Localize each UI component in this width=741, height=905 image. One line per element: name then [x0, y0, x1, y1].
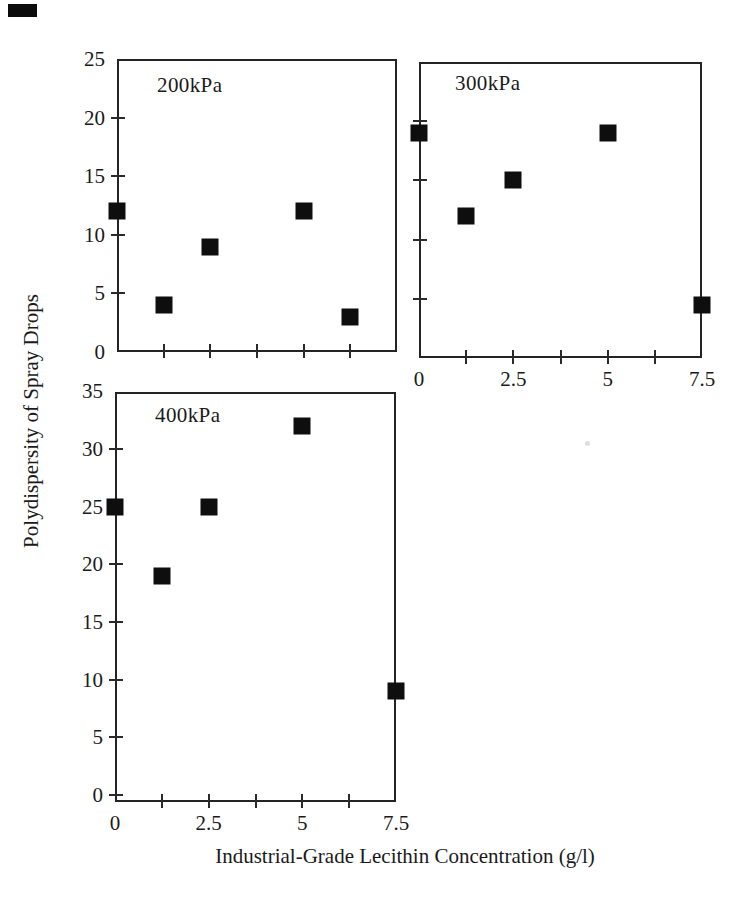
y-tick-label: 20: [59, 108, 105, 129]
x-tick-label: 5: [585, 369, 631, 390]
x-tick-label: 0: [396, 369, 442, 390]
y-tick-label: 25: [59, 49, 105, 70]
x-tick-mark: [349, 344, 351, 358]
x-tick-label: 7.5: [679, 369, 725, 390]
y-tick-mark: [413, 239, 427, 241]
x-tick-label: 5: [279, 813, 325, 834]
x-tick-label: 0: [92, 813, 138, 834]
x-tick-mark: [512, 350, 514, 364]
y-tick-mark: [111, 117, 125, 119]
x-tick-mark: [255, 794, 257, 808]
x-tick-mark: [348, 794, 350, 808]
x-tick-mark: [208, 794, 210, 808]
plot-title-300kPa: 300kPa: [455, 73, 520, 94]
y-tick-label: 30: [57, 439, 103, 460]
x-tick-mark: [654, 350, 656, 364]
plot-frame-400kPa: [115, 392, 396, 802]
y-tick-label: 25: [57, 497, 103, 518]
x-tick-label: 2.5: [490, 369, 536, 390]
x-tick-mark: [163, 344, 165, 358]
y-tick-label: 0: [59, 342, 105, 363]
plot-title-200kPa: 200kPa: [157, 75, 222, 96]
data-point-marker: [202, 238, 219, 255]
data-point-marker: [109, 203, 126, 220]
data-point-marker: [294, 418, 311, 435]
x-tick-mark: [161, 794, 163, 808]
y-tick-label: 15: [57, 612, 103, 633]
y-axis-title: Polydispersity of Spray Drops: [19, 271, 43, 571]
data-point-marker: [599, 125, 616, 142]
data-point-marker: [388, 683, 405, 700]
data-point-marker: [342, 308, 359, 325]
data-point-marker: [458, 207, 475, 224]
data-point-marker: [155, 297, 172, 314]
x-tick-mark: [607, 350, 609, 364]
y-tick-label: 10: [57, 670, 103, 691]
data-point-marker: [295, 203, 312, 220]
y-tick-mark: [413, 298, 427, 300]
y-tick-mark: [111, 292, 125, 294]
y-tick-label: 5: [57, 727, 103, 748]
y-tick-label: 20: [57, 554, 103, 575]
y-tick-mark: [109, 794, 123, 796]
y-tick-label: 15: [59, 166, 105, 187]
x-tick-mark: [560, 350, 562, 364]
data-point-marker: [153, 567, 170, 584]
y-tick-label: 35: [57, 381, 103, 402]
y-tick-mark: [109, 448, 123, 450]
y-tick-label: 0: [57, 785, 103, 806]
y-tick-mark: [413, 179, 427, 181]
data-point-marker: [200, 498, 217, 515]
y-tick-mark: [109, 736, 123, 738]
y-tick-mark: [413, 120, 427, 122]
x-tick-label: 2.5: [186, 813, 232, 834]
scan-artifact-mark: [8, 4, 37, 17]
x-tick-mark: [209, 344, 211, 358]
x-tick-mark: [465, 350, 467, 364]
y-tick-mark: [109, 563, 123, 565]
y-tick-mark: [109, 621, 123, 623]
x-tick-mark: [301, 794, 303, 808]
scan-speck: [585, 441, 590, 446]
y-tick-label: 10: [59, 225, 105, 246]
scanned-figure: Polydispersity of Spray Drops 200kPa 051…: [0, 0, 741, 905]
plot-title-400kPa: 400kPa: [155, 405, 220, 426]
data-point-marker: [107, 498, 124, 515]
x-tick-mark: [256, 344, 258, 358]
data-point-marker: [411, 125, 428, 142]
x-tick-mark: [303, 344, 305, 358]
y-tick-label: 5: [59, 283, 105, 304]
y-tick-mark: [109, 679, 123, 681]
x-tick-label: 7.5: [373, 813, 419, 834]
data-point-marker: [694, 296, 711, 313]
x-axis-title: Industrial-Grade Lecithin Concentration …: [155, 844, 655, 868]
data-point-marker: [505, 172, 522, 189]
y-tick-mark: [111, 234, 125, 236]
y-tick-mark: [111, 175, 125, 177]
